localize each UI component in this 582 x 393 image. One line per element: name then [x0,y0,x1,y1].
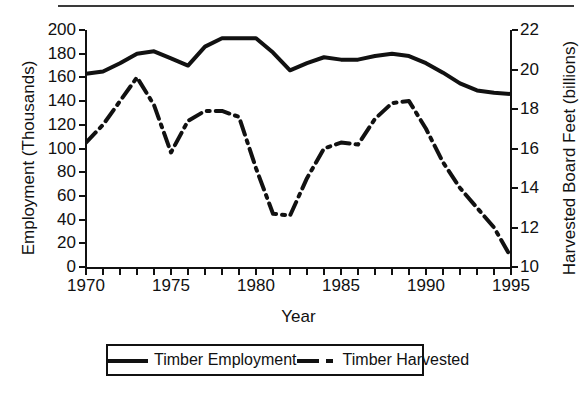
x-axis-tick [459,269,461,275]
y-axis-right-tick-label: 10 [520,258,539,275]
x-axis-tick [153,269,155,275]
y-axis-right-tick [512,108,518,110]
x-axis-tick [408,269,410,275]
x-axis-tick [476,269,478,275]
data-series-layer [85,30,512,269]
series-line-timber-employment [86,38,511,94]
x-axis-tick-labels: 197019751980198519901995 [85,277,512,299]
x-axis-tick [221,269,223,275]
y-axis-right-tick [512,29,518,31]
x-axis-tick [357,269,359,275]
x-axis-tick-label: 1970 [67,277,105,294]
x-axis-line [85,267,512,269]
x-axis-tick [187,269,189,275]
x-axis-tick [85,269,87,275]
y-axis-left-title: Employment (Thousands) [19,43,39,273]
y-axis-left-line [85,30,87,269]
x-axis-tick [493,269,495,275]
y-axis-right-tick [512,69,518,71]
y-axis-left-tick [79,219,85,221]
x-axis-tick [255,269,257,275]
legend-label-timber-employment: Timber Employment [154,351,297,369]
y-axis-right-tick-label: 18 [520,100,539,117]
x-axis-title: Year [85,307,512,327]
x-axis-tick [391,269,393,275]
y-axis-right-tick-label: 22 [520,21,539,38]
y-axis-left-tick [79,171,85,173]
y-axis-left-tick [79,242,85,244]
legend-item-timber-employment: Timber Employment [108,351,297,369]
y-axis-right-tick [512,266,518,268]
chart-legend: Timber Employment Timber Harvested [106,344,424,376]
y-axis-left-tick [79,29,85,31]
x-axis-tick-label: 1975 [152,277,190,294]
x-axis-tick-label: 1990 [407,277,445,294]
y-axis-right-title: Harvested Board Feet (billions) [560,33,580,283]
y-axis-right-tick-label: 20 [520,61,539,78]
y-axis-right-tick-labels: 10121416182022 [520,30,560,268]
y-axis-right-tick [512,148,518,150]
y-axis-right-tick-label: 16 [520,140,539,157]
x-axis-tick [442,269,444,275]
y-axis-right-tick-label: 12 [520,219,539,236]
x-axis-tick [272,269,274,275]
y-axis-left-tick [79,148,85,150]
series-line-timber-harvested [86,77,511,257]
x-axis-tick [306,269,308,275]
x-axis-tick [323,269,325,275]
chart-figure: 020406080100120140160180200 101214161820… [0,0,582,393]
x-axis-tick [238,269,240,275]
x-axis-tick [170,269,172,275]
top-divider-rule [58,5,574,7]
y-axis-left-tick [79,195,85,197]
y-axis-left-tick [79,124,85,126]
x-axis-tick [136,269,138,275]
dashdot-line-swatch-icon [297,353,337,367]
y-axis-right-tick [512,227,518,229]
x-axis-tick [340,269,342,275]
plot-area [85,30,512,268]
x-axis-tick-label: 1980 [237,277,275,294]
x-axis-tick [102,269,104,275]
y-axis-left-tick [79,53,85,55]
x-axis-tick [425,269,427,275]
x-axis-tick [119,269,121,275]
y-axis-left-tick [79,266,85,268]
x-axis-tick [204,269,206,275]
y-axis-right-line [510,30,512,269]
legend-label-timber-harvested: Timber Harvested [343,351,470,369]
x-axis-tick-label: 1985 [322,277,360,294]
y-axis-right-tick [512,187,518,189]
y-axis-right-tick-label: 14 [520,179,539,196]
y-axis-left-tick-label: 200 [20,21,76,38]
legend-item-timber-harvested: Timber Harvested [297,351,470,369]
solid-line-swatch-icon [108,353,148,367]
x-axis-tick [510,269,512,275]
x-axis-tick [289,269,291,275]
y-axis-left-tick [79,100,85,102]
x-axis-tick-label: 1995 [492,277,530,294]
y-axis-left-tick [79,76,85,78]
x-axis-tick [374,269,376,275]
